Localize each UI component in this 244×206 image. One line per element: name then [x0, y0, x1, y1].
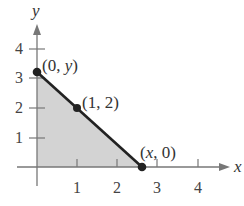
y-tick-label: 2 [15, 99, 23, 116]
y-tick-label: 4 [15, 40, 23, 57]
point-y-intercept [33, 68, 42, 77]
label-point-1-2: (1, 2) [82, 93, 119, 112]
x-axis-label: x [233, 157, 242, 176]
point-x-intercept [138, 163, 147, 172]
x-axis-arrow-icon [219, 163, 230, 171]
x-tick-label: 2 [113, 179, 121, 196]
y-tick-label: 3 [15, 69, 23, 86]
x-tick-label: 3 [153, 179, 161, 196]
x-tick-label: 4 [194, 179, 202, 196]
y-axis-label: y [30, 1, 40, 20]
label-x-intercept: (x, 0) [140, 143, 176, 162]
y-tick-label: 1 [15, 129, 23, 146]
triangle-diagram: 1 2 3 4 1 2 3 4 x y (0, y) (1, 2) (x, 0) [0, 0, 244, 206]
point-1-2 [73, 104, 81, 112]
y-axis-arrow-icon [33, 24, 41, 35]
x-tick-label: 1 [73, 179, 81, 196]
label-y-intercept: (0, y) [42, 56, 78, 75]
